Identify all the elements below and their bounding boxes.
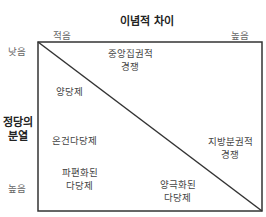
diagram-frame <box>0 0 266 217</box>
region-fragmented-multiparty: 파편화된 다당제 <box>52 166 107 192</box>
region-moderate-multiparty: 온건다당제 <box>42 134 107 147</box>
region-decentralized-competition: 지방분권적 경쟁 <box>200 135 260 161</box>
region-two-party: 양당제 <box>44 85 94 98</box>
x-axis-low-label: 적음 <box>53 28 71 42</box>
region-polarized-multiparty: 양극화된 다당제 <box>150 178 205 204</box>
x-axis-high-label: 높음 <box>231 28 249 42</box>
y-axis-high-label: 높음 <box>8 181 26 195</box>
region-central-competition: 중앙집권적 경쟁 <box>100 47 160 73</box>
y-axis-low-label: 낮음 <box>8 44 26 58</box>
x-axis-title: 이념적 차이 <box>120 12 174 28</box>
y-axis-title: 정당의 분열 <box>2 116 34 144</box>
y-axis-title-line1: 정당의 <box>2 116 34 130</box>
y-axis-title-line2: 분열 <box>2 130 34 144</box>
